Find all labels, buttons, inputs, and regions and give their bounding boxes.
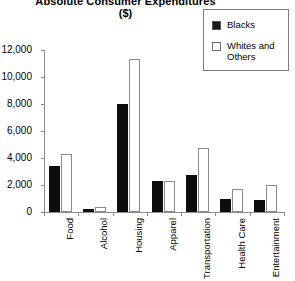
y-axis-tick-label: 6,000 [0,126,32,136]
y-axis-tick-label: 12,000 [0,45,32,55]
bar-alcohol-whites-and-others [95,207,106,212]
x-axis-tick [147,212,148,216]
y-axis-tick-label: 2,000 [0,180,32,190]
x-axis-tick [284,212,285,216]
x-axis-label-health-care: Health Care [237,218,247,269]
x-axis-label-alcohol: Alcohol [99,218,109,249]
x-axis-line [44,212,284,213]
bar-entertainment-blacks [254,200,265,212]
bar-alcohol-blacks [83,209,94,212]
bar-food-whites-and-others [61,154,72,212]
y-axis-tick [41,50,45,51]
x-axis-label-food: Food [65,218,75,240]
y-axis-tick [41,131,45,132]
x-axis-label-entertainment: Entertainment [271,218,281,277]
x-axis-tick [113,212,114,216]
x-axis-tick [44,212,45,216]
x-axis-label-housing: Housing [134,218,144,253]
bar-health-care-whites-and-others [232,189,243,212]
x-axis-tick [181,212,182,216]
bar-apparel-whites-and-others [164,181,175,212]
bar-housing-blacks [117,104,128,212]
x-axis-tick [250,212,251,216]
x-axis-label-transportation: Transportation [202,218,212,279]
bar-transportation-blacks [186,175,197,212]
x-axis-tick [78,212,79,216]
y-axis-tick-label: 8,000 [0,99,32,109]
legend-item-blacks: Blacks [212,19,285,30]
y-axis-tick [41,158,45,159]
bar-entertainment-whites-and-others [266,185,277,212]
y-axis-tick [41,77,45,78]
bar-apparel-blacks [152,181,163,212]
legend-label-blacks: Blacks [227,19,285,30]
y-axis-tick-label: 0 [0,207,32,217]
y-axis-tick-label: 10,000 [0,72,32,82]
chart-container: Absolute Consumer Expenditures ($) Black… [0,0,295,281]
y-axis-tick [41,104,45,105]
chart-subtitle: ($) [18,7,233,19]
y-axis-tick-label: 4,000 [0,153,32,163]
bar-transportation-whites-and-others [198,148,209,212]
y-axis-tick [41,185,45,186]
chart-title: Absolute Consumer Expenditures [18,0,233,7]
bar-housing-whites-and-others [129,59,140,212]
legend-swatch-filled-square-icon [212,21,221,30]
bar-food-blacks [49,166,60,212]
x-axis-label-apparel: Apparel [168,218,178,251]
bar-health-care-blacks [220,199,231,213]
plot-area: 02,0004,0006,0008,00010,00012,000 FoodAl… [44,50,284,212]
x-axis-tick [215,212,216,216]
